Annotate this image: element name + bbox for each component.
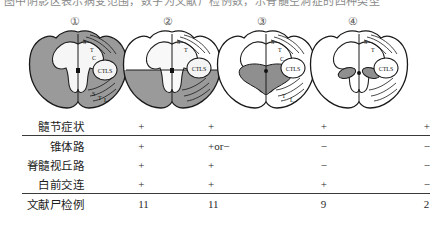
row-3-col-2: +: [164, 174, 251, 194]
row-label-0: 髓节症状: [22, 116, 90, 136]
table-row: 文献尸检例 11 11 9 2: [22, 194, 430, 214]
row-label-3: 白前交连: [22, 174, 90, 194]
clipped-caption-line: 图中阴影区表示病变范围，数字为文献尸检例数，示脊髓空洞症的四种类型: [0, 0, 442, 9]
row-3-col-3: +: [251, 174, 352, 194]
row-1-col-1: +: [90, 136, 164, 156]
row-label-1: 锥体路: [22, 136, 90, 156]
row-label-2: 脊髓视丘路: [22, 155, 90, 174]
tract-label-t-dorsal: T: [371, 47, 375, 53]
tract-label-t-ventral: T: [282, 93, 286, 99]
spinal-cord-diagram-4: CTLS S T: [307, 28, 411, 112]
row-0-col-1: +: [90, 116, 164, 136]
table-row: 脊髓视丘路 + + − −: [22, 155, 430, 174]
tract-label-s-dorsal: S: [177, 39, 180, 45]
row-4-col-1: 11: [90, 194, 164, 214]
row-1-col-2: +or−: [164, 136, 251, 156]
central-canal: [170, 68, 174, 73]
spinal-cord-diagram-1: CTLS S T L S T C: [26, 28, 130, 112]
row-4-col-2: 11: [164, 194, 251, 214]
tract-label-s-dorsal: S: [271, 39, 274, 45]
tract-label-ctls: CTLS: [379, 66, 394, 72]
row-2-col-2: +: [164, 155, 251, 174]
tract-label-t: T: [98, 95, 102, 101]
central-canal: [264, 69, 268, 73]
tract-label-ctls: CTLS: [192, 66, 207, 72]
tract-label-c-dorsal: C: [280, 56, 284, 62]
tract-label-s-dorsal: S: [83, 39, 86, 45]
row-4-col-4: 2: [352, 194, 430, 214]
central-canal: [76, 68, 80, 73]
table-row: 髓节症状 + + + +: [22, 116, 430, 136]
tract-label-s: S: [92, 91, 95, 97]
tract-label-l-ventral: L: [290, 97, 294, 103]
figure-number-4: ④: [343, 14, 363, 28]
row-1-col-3: −: [251, 136, 352, 156]
figure-number-2: ②: [158, 14, 178, 28]
row-0-col-4: +: [352, 116, 430, 136]
central-canal: [357, 71, 361, 75]
row-4-col-3: 9: [251, 194, 352, 214]
table-row: 白前交连 + + + −: [22, 174, 430, 194]
table-row: 锥体路 + +or− − −: [22, 136, 430, 156]
row-0-col-2: +: [164, 116, 251, 136]
spinal-cord-diagram-row: CTLS S T L S T C: [0, 28, 442, 112]
row-2-col-1: +: [90, 155, 164, 174]
tract-label-ctls: CTLS: [286, 66, 301, 72]
row-1-col-4: −: [352, 136, 430, 156]
tract-label-l: L: [104, 97, 108, 103]
figure-number-3: ③: [252, 14, 272, 28]
row-3-col-1: +: [90, 174, 164, 194]
row-3-col-4: −: [352, 174, 430, 194]
clipped-caption-text: 图中阴影区表示病变范围，数字为文献尸检例数，示脊髓空洞症的四种类型: [0, 0, 442, 7]
row-2-col-3: −: [251, 155, 352, 174]
tract-label-c-dorsal: C: [92, 55, 96, 61]
tract-label-t-dorsal: T: [90, 47, 94, 53]
tract-label-s-dorsal: S: [364, 39, 367, 45]
figure-page: 图中阴影区表示病变范围，数字为文献尸检例数，示脊髓空洞症的四种类型 ① ② ③ …: [0, 0, 442, 228]
tract-label-t-dorsal: T: [184, 47, 188, 53]
tract-label-ctls: CTLS: [98, 68, 113, 74]
spinal-cord-diagram-3: CTLS S T C T L: [214, 28, 318, 112]
comparison-table: 髓节症状 + + + + 锥体路 + +or− − − 脊髓视丘路 + + − …: [22, 116, 430, 213]
spinal-cord-diagram-2: CTLS S T: [120, 28, 224, 112]
row-2-col-4: −: [352, 155, 430, 174]
row-label-4: 文献尸检例: [22, 194, 90, 214]
row-0-col-3: +: [251, 116, 352, 136]
tract-label-t-dorsal: T: [278, 47, 282, 53]
figure-number-1: ①: [65, 14, 85, 28]
